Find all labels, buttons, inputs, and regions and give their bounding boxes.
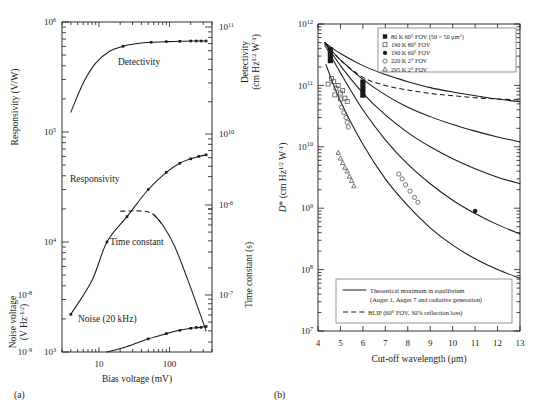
panel-b-text: 45678910111213Cut-off wavelength (μm)107… xyxy=(274,18,525,401)
data-point-open-square xyxy=(333,93,337,97)
data-point-open-triangle xyxy=(343,165,347,169)
svg-text:6: 6 xyxy=(361,338,366,348)
svg-text:Time constant: Time constant xyxy=(110,237,164,247)
svg-text:Bias voltage (mV): Bias voltage (mV) xyxy=(102,374,172,385)
svg-text:1010: 1010 xyxy=(219,128,234,140)
svg-text:8: 8 xyxy=(406,338,411,348)
svg-text:105: 105 xyxy=(44,126,56,138)
panel-a-curves xyxy=(70,40,208,352)
data-point-filled-circle xyxy=(473,209,477,213)
data-point-open-circle xyxy=(342,111,346,115)
legend-entry-label: 295 K 2° FOV xyxy=(391,66,428,73)
data-point-open-circle xyxy=(397,172,401,176)
data-point-open-circle xyxy=(346,125,350,129)
data-point-open-triangle xyxy=(352,184,356,188)
svg-text:10-7: 10-7 xyxy=(219,289,233,301)
data-point-open-circle xyxy=(408,189,412,193)
legend-blip-label: BLIP (60° FOV, 30% reflection loss) xyxy=(368,309,463,317)
data-point-open-circle xyxy=(416,200,420,204)
svg-text:Cut-off wavelength (μm): Cut-off wavelength (μm) xyxy=(371,354,466,365)
figure-container: 10100Bias voltage (mV)10610510410310-810… xyxy=(0,0,535,420)
svg-text:Detectivity: Detectivity xyxy=(240,41,250,83)
data-point-open-triangle xyxy=(338,156,342,160)
legend-theoretical-line2: (Auger 1, Auger 7 and radiative generati… xyxy=(370,296,482,304)
data-point-open-triangle xyxy=(349,178,353,182)
svg-text:11: 11 xyxy=(471,338,480,348)
legend-theoretical-line1: Theoretical maximum in equilibrium xyxy=(370,287,465,294)
svg-text:D* (cm Hz1/2 W-1): D* (cm Hz1/2 W-1) xyxy=(277,143,289,214)
svg-text:Detectivity: Detectivity xyxy=(118,57,160,67)
data-point-open-square xyxy=(326,82,330,86)
svg-text:10: 10 xyxy=(448,338,458,348)
legend-entry-label: 220 K 2° FOV xyxy=(391,57,428,64)
svg-text:109: 109 xyxy=(301,202,313,214)
svg-text:1010: 1010 xyxy=(298,140,313,152)
svg-text:(b): (b) xyxy=(274,390,285,401)
svg-text:7: 7 xyxy=(383,338,388,348)
panel-b-curves xyxy=(325,42,520,278)
svg-text:103: 103 xyxy=(44,346,56,358)
svg-text:1011: 1011 xyxy=(219,21,234,33)
panel-b-svg: 80 K 60° FOV (50 × 50 μm2)190 K 80° FOV1… xyxy=(272,0,535,420)
svg-text:Noise voltage: Noise voltage xyxy=(8,296,18,349)
svg-text:(cm Hz1/2 W-1): (cm Hz1/2 W-1) xyxy=(250,34,262,90)
svg-text:9: 9 xyxy=(428,338,433,348)
svg-text:4: 4 xyxy=(316,338,321,348)
svg-text:(V Hz-1/2): (V Hz-1/2) xyxy=(18,304,30,340)
time-constant-solid xyxy=(154,215,206,331)
data-point-open-circle xyxy=(345,120,349,124)
svg-text:10-8: 10-8 xyxy=(18,289,32,301)
panel-a-svg: 10100Bias voltage (mV)10610510410310-810… xyxy=(0,0,275,420)
svg-text:Time constant (s): Time constant (s) xyxy=(244,242,255,308)
svg-text:100: 100 xyxy=(163,359,177,369)
data-point-open-triangle xyxy=(340,160,344,164)
data-point-open-circle xyxy=(400,177,404,181)
svg-text:Noise (20 kHz): Noise (20 kHz) xyxy=(78,314,137,325)
svg-text:10-6: 10-6 xyxy=(219,199,233,211)
svg-text:Responsivity (V/W): Responsivity (V/W) xyxy=(10,69,21,146)
svg-text:13: 13 xyxy=(516,338,526,348)
panel-a: 10100Bias voltage (mV)10610510410310-810… xyxy=(0,0,275,420)
panel-a-axes xyxy=(62,22,212,352)
svg-text:10-9: 10-9 xyxy=(18,346,32,358)
svg-text:5: 5 xyxy=(338,338,343,348)
legend-entry-label: 80 K 60° FOV (50 × 50 μm2) xyxy=(391,33,464,41)
data-bar xyxy=(328,47,333,63)
legend-entry-label: 190 K 60° FOV xyxy=(391,49,431,56)
legend-marker-filled-square xyxy=(383,34,387,38)
legend-marker-filled-circle xyxy=(383,51,387,55)
panel-b-legends: 80 K 60° FOV (50 × 50 μm2)190 K 80° FOV1… xyxy=(336,28,516,323)
svg-text:1012: 1012 xyxy=(298,18,313,30)
data-point-open-triangle xyxy=(347,174,351,178)
data-point-open-circle xyxy=(412,195,416,199)
panel-b: 80 K 60° FOV (50 × 50 μm2)190 K 80° FOV1… xyxy=(272,0,535,420)
legend-entry-label: 190 K 80° FOV xyxy=(391,41,431,48)
svg-text:12: 12 xyxy=(493,338,502,348)
svg-text:107: 107 xyxy=(301,325,313,337)
theoretical-curve-4-curve xyxy=(325,45,520,234)
data-point-open-circle xyxy=(403,183,407,187)
svg-text:Responsivity: Responsivity xyxy=(70,174,120,184)
svg-text:1011: 1011 xyxy=(298,79,313,91)
data-point-open-triangle xyxy=(336,150,340,154)
svg-text:108: 108 xyxy=(301,263,313,275)
data-bar xyxy=(360,79,365,97)
detectivity-curve xyxy=(71,41,206,112)
data-point-open-circle xyxy=(344,115,348,119)
svg-text:106: 106 xyxy=(44,16,56,28)
noise-curve xyxy=(107,327,206,352)
svg-text:104: 104 xyxy=(44,236,56,248)
svg-text:(a): (a) xyxy=(14,390,25,401)
svg-text:10: 10 xyxy=(94,359,104,369)
